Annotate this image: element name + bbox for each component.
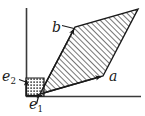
label-b: b — [52, 20, 61, 34]
vector-parallelogram-figure: e2 e1 b a — [0, 0, 145, 116]
label-b-base: b — [52, 19, 61, 35]
label-a: a — [109, 69, 117, 83]
label-e1-subscript: 1 — [37, 104, 43, 114]
label-a-base: a — [109, 68, 117, 84]
label-e2-subscript: 2 — [10, 76, 16, 86]
label-e2: e2 — [2, 69, 16, 83]
leader-line-b — [62, 26, 74, 29]
figure-canvas — [0, 0, 145, 116]
label-e1: e1 — [29, 97, 43, 111]
leader-line-e2 — [19, 80, 26, 83]
